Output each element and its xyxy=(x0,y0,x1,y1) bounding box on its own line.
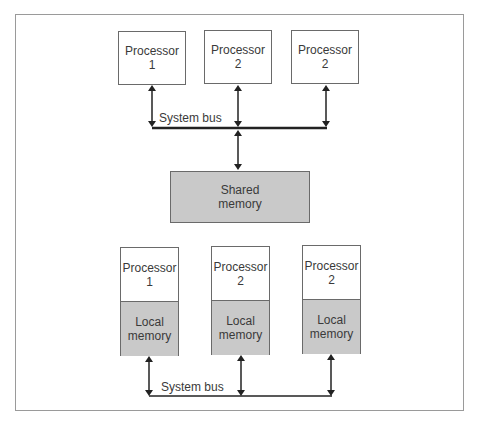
bottom-bus xyxy=(149,357,332,396)
connectors xyxy=(0,0,478,426)
top-bus xyxy=(152,88,327,167)
